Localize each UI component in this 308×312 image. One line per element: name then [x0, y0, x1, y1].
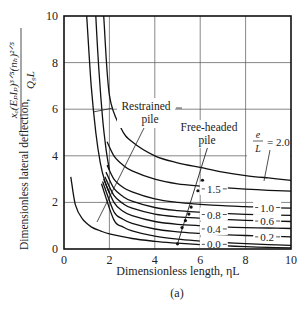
x-tick-label: 10	[285, 253, 297, 267]
chart: 1.51.00.80.60.40.20.0 02468100246810 Dim…	[0, 0, 308, 312]
restrained-label-2: pile	[141, 113, 158, 126]
x-axis-label: Dimensionless length, ηL	[116, 264, 239, 278]
figure-caption: (a)	[170, 286, 183, 300]
curve-label: 1.0	[260, 202, 274, 214]
eL-numerator: e	[256, 129, 261, 140]
restrained-label-1: Restrained	[121, 100, 170, 112]
eL-equals: = 2.0	[267, 136, 290, 148]
curve-label: 0.6	[260, 215, 274, 227]
free-headed-pile-annotation: Free-headed pile	[180, 120, 238, 148]
marker-dot	[196, 189, 199, 192]
curve-label: 0.8	[207, 209, 221, 221]
curve-label: 0.2	[260, 231, 274, 243]
curve-labels: 1.51.00.80.60.40.20.0	[200, 182, 281, 250]
y-axis-label: Dimensionless lateral deflection, xₒ(EₚI…	[7, 28, 36, 250]
y-tick-label: 0	[52, 242, 58, 256]
eL-annotation: e L = 2.0	[247, 128, 290, 181]
y-tick-label: 6	[52, 102, 58, 116]
y-axis-label-text: Dimensionless lateral deflection,	[18, 99, 31, 250]
marker-dot	[190, 205, 193, 208]
x-tick-label: 2	[106, 253, 112, 267]
y-axis-formula-den: Q₉L	[24, 71, 36, 89]
marker-dot	[180, 226, 183, 229]
marker-dot	[187, 212, 190, 215]
curve-line	[87, 16, 110, 193]
marker-dot	[176, 242, 179, 245]
y-tick-label: 10	[46, 9, 58, 23]
marker-dot	[184, 219, 187, 222]
x-tick-label: 8	[243, 253, 249, 267]
curve-label: 0.4	[207, 223, 221, 235]
y-tick-label: 8	[52, 56, 58, 70]
y-axis-formula-num: xₒ(EₚIₚ)³ᐟ⁵(nₕ)²ᐟ⁵	[7, 42, 20, 120]
y-tick-label: 4	[52, 149, 58, 163]
free-headed-label-1: Free-headed	[181, 121, 238, 133]
x-tick-label: 0	[61, 253, 67, 267]
eL-denominator: L	[254, 143, 261, 154]
free-headed-label-2: pile	[198, 134, 215, 147]
y-tick-label: 2	[52, 195, 58, 209]
marker-dot	[201, 179, 204, 182]
curve-label: 1.5	[207, 183, 221, 195]
